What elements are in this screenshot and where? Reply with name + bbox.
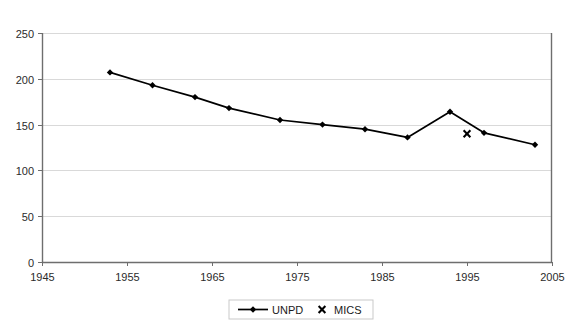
y-tick-label: 200 bbox=[16, 74, 34, 86]
x-tick-label: 1985 bbox=[370, 271, 394, 283]
x-tick-label: 1975 bbox=[285, 271, 309, 283]
line-chart: 0501001502002501945195519651975198519952… bbox=[0, 0, 588, 334]
x-tick-label: 1945 bbox=[30, 271, 54, 283]
x-axis-ticks: 1945195519651975198519952005 bbox=[30, 262, 564, 283]
x-tick-label: 1955 bbox=[115, 271, 139, 283]
y-tick-label: 150 bbox=[16, 120, 34, 132]
plot-area bbox=[42, 33, 552, 262]
y-axis-ticks: 050100150200250 bbox=[16, 28, 42, 269]
x-tick-label: 1995 bbox=[455, 271, 479, 283]
chart-container: 0501001502002501945195519651975198519952… bbox=[0, 0, 588, 334]
chart-legend: UNPDMICS bbox=[229, 300, 373, 319]
y-tick-label: 50 bbox=[22, 211, 34, 223]
legend-label-unpd: UNPD bbox=[272, 304, 303, 316]
x-tick-label: 1965 bbox=[200, 271, 224, 283]
y-tick-label: 250 bbox=[16, 28, 34, 40]
y-tick-label: 100 bbox=[16, 165, 34, 177]
legend-label-mics: MICS bbox=[334, 304, 362, 316]
y-tick-label: 0 bbox=[28, 257, 34, 269]
x-tick-label: 2005 bbox=[540, 271, 564, 283]
